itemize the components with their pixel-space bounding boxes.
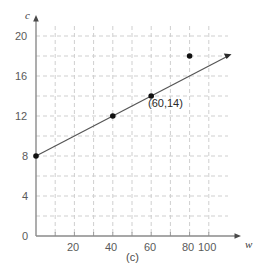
y-axis-label: c (25, 10, 30, 21)
y-tick-label-4: 4 (22, 191, 28, 202)
data-point (110, 113, 116, 119)
vertical-gridlines (55, 26, 209, 236)
y-tick-label-16: 16 (15, 71, 27, 82)
y-tick-label-8: 8 (22, 151, 28, 162)
data-line (36, 53, 232, 156)
data-point (187, 53, 193, 59)
y-tick-label-20: 20 (15, 31, 27, 42)
y-tick-label-0: 0 (22, 231, 28, 242)
y-tick-label-12: 12 (15, 111, 27, 122)
y-axis-line (33, 15, 39, 236)
figure-caption: (c) (0, 252, 265, 263)
data-point (33, 153, 39, 159)
chart-figure: 0 4 8 12 16 20 20 40 60 80 100 c w (60,1… (0, 0, 265, 275)
x-axis-line (36, 233, 241, 239)
point-annotation-60-14: (60,14) (148, 98, 183, 109)
x-axis-label: w (245, 239, 252, 250)
plot-canvas (0, 0, 265, 275)
